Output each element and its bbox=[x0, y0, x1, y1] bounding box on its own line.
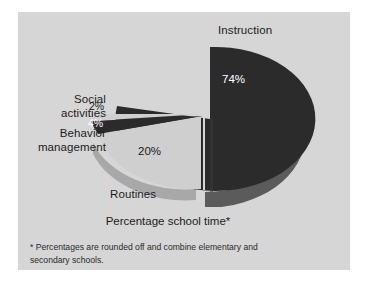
slice-cut-instruction bbox=[210, 119, 213, 192]
chart-caption: Percentage school time* bbox=[18, 215, 318, 227]
slice-label-behavior: Behavior management bbox=[18, 127, 106, 154]
slice-label-behavior-line1: Behavior bbox=[18, 127, 106, 141]
slice-label-behavior-line2: management bbox=[18, 141, 106, 155]
slice-label-social: Social activities bbox=[28, 93, 106, 120]
chart-footnote-line1: * Percentages are rounded off and combin… bbox=[30, 241, 330, 254]
slice-value-routines: 20% bbox=[138, 145, 161, 157]
slice-value-instruction: 74% bbox=[222, 73, 245, 85]
chart-footnote-line2: secondary schools. bbox=[30, 254, 330, 267]
chart-panel: 74% 20% 4% 2% Instruction Social activit… bbox=[18, 12, 350, 270]
slice-label-instruction: Instruction bbox=[218, 24, 272, 38]
chart-footnote: * Percentages are rounded off and combin… bbox=[30, 241, 330, 267]
slice-label-routines: Routines bbox=[110, 188, 156, 202]
figure-container: 74% 20% 4% 2% Instruction Social activit… bbox=[0, 0, 370, 283]
slice-label-social-line1: Social bbox=[28, 93, 106, 107]
slice-label-social-line2: activities bbox=[28, 107, 106, 121]
